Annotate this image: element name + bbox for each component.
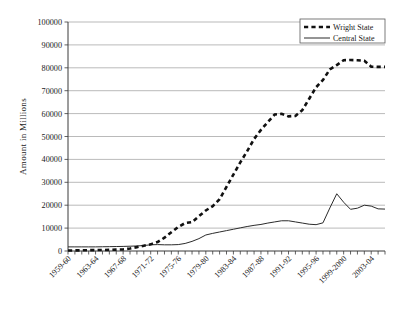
chart-container: 0100002000030000400005000060000700008000… [0,0,403,316]
y-tick-labels-group: 0100002000030000400005000060000700008000… [37,18,62,256]
x-tick-label: 2003-04 [350,254,376,280]
y-tick-label: 20000 [42,201,62,210]
x-tick-labels-group: 1959-601963-641967-681971-721975-761979-… [47,254,376,285]
y-tick-label: 40000 [42,155,62,164]
y-tick-marks-group [65,22,69,251]
x-tick-label: 1963-64 [75,254,101,280]
x-tick-label: 1967-68 [102,254,128,280]
gridlines-group [68,22,385,228]
y-tick-label: 50000 [42,133,62,142]
y-tick-label: 90000 [42,41,62,50]
x-tick-label: 1979-80 [185,254,211,280]
chart-legend: Wright State Central State [300,19,385,43]
x-tick-label: 1983-84 [213,254,239,280]
y-tick-label: 30000 [42,178,62,187]
x-tick-label: 1995-96 [295,254,321,280]
x-tick-label: 1987-88 [240,254,266,280]
x-tick-label: 1975-76 [158,254,184,280]
series-line-wright-state [68,60,385,251]
y-tick-label: 10000 [42,224,62,233]
series-line-central-state [68,194,385,247]
y-tick-label: 80000 [42,64,62,73]
x-tick-label: 1999-2000 [317,254,348,285]
legend-label-wright-state: Wright State [333,23,374,32]
legend-label-central-state: Central State [333,34,375,43]
x-tick-label: 1991-92 [268,254,294,280]
y-axis-title: Amount in Millions [18,98,28,175]
y-tick-label: 60000 [42,110,62,119]
x-tick-label: 1971-72 [130,254,156,280]
y-tick-label: 100000 [37,18,62,27]
x-tick-label: 1959-60 [47,254,73,280]
line-chart: 0100002000030000400005000060000700008000… [0,0,403,316]
x-tick-marks-group [68,251,385,255]
y-tick-label: 70000 [42,87,62,96]
y-tick-label: 0 [58,247,62,256]
